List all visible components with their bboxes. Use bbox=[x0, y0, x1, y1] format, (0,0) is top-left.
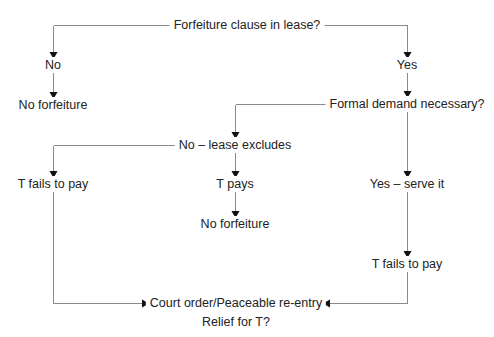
node-t-fails-left: T fails to pay bbox=[14, 176, 93, 192]
node-no: No bbox=[41, 57, 65, 73]
node-forfeiture-clause: Forfeiture clause in lease? bbox=[170, 17, 325, 33]
connector-lines bbox=[0, 0, 494, 337]
node-t-fails-right: T fails to pay bbox=[368, 256, 447, 272]
node-yes: Yes bbox=[393, 57, 421, 73]
node-relief: Relief for T? bbox=[198, 314, 274, 330]
forfeiture-flowchart: Forfeiture clause in lease? No No forfei… bbox=[0, 0, 494, 337]
node-no-forfeiture-mid: No forfeiture bbox=[197, 216, 274, 232]
node-no-forfeiture-left: No forfeiture bbox=[15, 97, 92, 113]
node-t-pays: T pays bbox=[212, 176, 257, 192]
node-court-order: Court order/Peaceable re-entry bbox=[146, 295, 326, 311]
node-no-lease-excludes: No – lease excludes bbox=[175, 137, 296, 153]
node-yes-serve-it: Yes – serve it bbox=[366, 176, 449, 192]
node-formal-demand: Formal demand necessary? bbox=[326, 96, 489, 112]
